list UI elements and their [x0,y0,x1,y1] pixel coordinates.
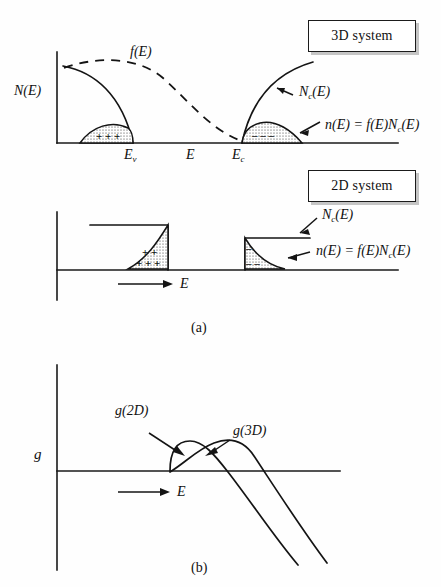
arrow-head-ne-2d [288,254,297,261]
label-g2d: g(2D) [115,404,148,418]
tick-label-ev-sub: v [133,154,137,164]
tick-label-ev-main: E [124,147,133,162]
label-carrier-2d: n(E) = f(E)Nc(E) [316,244,410,260]
electron-charge-symbols-2d-bottom: – – [245,257,260,269]
figure-container: + + + – – – + + + + + [0,0,441,587]
label-carrier-3d: n(E) = f(E)Nc(E) [325,118,419,134]
curve-fermi-function-3d [64,60,244,142]
panel-b [57,365,340,570]
hole-charge-symbols-3d: + + + [96,130,120,142]
arrow-line-g2d [149,433,178,452]
tick-label-e-mid: E [186,148,195,162]
label-nc-3d-main: N [299,84,308,99]
label-fermi-function-3d: f(E) [130,45,152,59]
axis-label-ne-3d: N(E) [14,84,41,98]
axis-arrow-label-e-2d: E [180,277,189,291]
label-nc-2d-main: N [322,207,331,222]
label-nc-3d: Nc(E) [299,85,330,101]
axis-label-g-b: g [34,447,42,462]
electron-charge-symbols-3d: – – – [251,129,275,141]
label-carrier-3d-main: n(E) = f(E)N [325,117,397,132]
label-nc-3d-tail: (E) [312,84,330,99]
label-nc-2d-tail: (E) [335,207,353,222]
arrow-head-energy-2d [163,280,173,288]
tick-label-ev: Ev [124,148,137,164]
label-box-2d-system: 2D system [308,170,416,202]
label-2d-system-text: 2D system [331,178,392,194]
caption-panel-a: (a) [191,320,207,336]
label-carrier-3d-tail: (E) [401,117,419,132]
axis-arrow-label-e-b: E [177,485,186,499]
tick-label-ec-main: E [232,147,241,162]
label-box-3d-system: 3D system [308,20,416,52]
hole-charge-symbols-2d-bottom: + + + [136,257,160,269]
label-carrier-2d-tail: (E) [392,243,410,258]
figure-svg: + + + – – – + + + + + [0,0,441,587]
curve-g3d [170,440,327,563]
arrow-head-nc-3d [277,88,285,94]
label-carrier-2d-main: n(E) = f(E)N [316,243,388,258]
tick-label-ec: Ec [232,148,245,164]
electron-charge-symbols-2d-top: – [245,242,252,254]
arrow-head-energy-b [160,488,170,496]
curve-g2d [170,441,298,565]
tick-label-ec-sub: c [241,154,245,164]
label-nc-2d: Nc(E) [322,208,353,224]
label-g3d: g(3D) [233,424,266,438]
label-3d-system-text: 3D system [331,28,392,44]
arrow-line-ne-3d [300,122,320,133]
caption-panel-b: (b) [191,560,207,576]
